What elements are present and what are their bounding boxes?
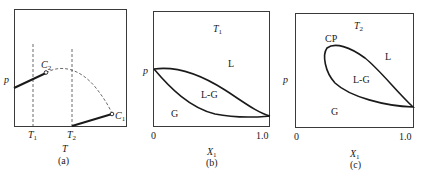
b-x-tick-0: 0 [151,130,156,141]
c-caption: (c) [350,159,361,171]
component1-vapor-line [72,114,112,126]
panel-c: T2 CP L L-G G p 0 1.0 X1 (c) [282,14,414,172]
c-region-cp: CP [325,33,338,44]
b-caption: (b) [206,157,218,169]
component2-vapor-line [14,73,46,88]
c-x-tick-1: 1.0 [399,131,412,142]
c-x-tick-0: 0 [294,131,299,142]
c-y-axis-label: p [282,74,288,85]
critical-locus-curve [46,68,112,114]
b-x-tick-1: 1.0 [256,130,269,141]
c-region-g: G [331,106,338,117]
t2-tick-label: T2 [67,129,77,142]
c-region-l: L [385,51,391,62]
b-y-axis-label: p [142,65,148,76]
a-x-axis-label: T [62,143,69,154]
panel-b: T1 p L L-G G 0 1.0 X1 (b) [142,12,270,170]
panel-a: p C2 C1 T1 T2 T (a) [3,10,127,168]
t1-tick-label: T1 [28,129,38,142]
c-title: T2 [354,20,364,33]
b-region-g: G [171,108,178,119]
b-region-lg: L-G [201,89,218,100]
a-y-axis-label: p [3,74,9,85]
c1-point [110,112,114,116]
b-region-l: L [228,58,234,69]
b-title: T1 [213,23,223,36]
c2-label: C2 [41,59,52,72]
a-caption: (a) [58,155,69,167]
phase-diagram-figure: p C2 C1 T1 T2 T (a) T1 p L L-G G 0 1.0 X… [0,0,424,175]
c-region-lg: L-G [353,74,370,85]
c1-label: C1 [115,110,126,123]
